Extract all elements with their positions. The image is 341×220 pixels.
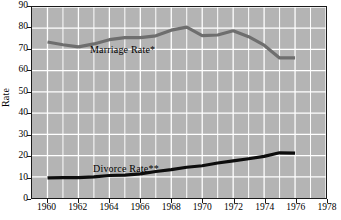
y-tick-mark-30 — [27, 135, 31, 136]
plot-area — [31, 6, 327, 199]
x-tick-label-1962: 1962 — [61, 203, 95, 213]
y-tick-label-30: 30 — [6, 130, 28, 140]
y-tick-mark-40 — [27, 113, 31, 114]
x-tick-mark-1972 — [234, 199, 235, 203]
y-tick-label-70: 70 — [6, 44, 28, 54]
series-label-divorce-rate: Divorce Rate** — [93, 163, 159, 174]
x-tick-label-1972: 1972 — [217, 203, 251, 213]
x-tick-label-1974: 1974 — [248, 203, 282, 213]
y-tick-label-20: 20 — [6, 151, 28, 161]
x-tick-label-1976: 1976 — [279, 203, 313, 213]
y-tick-label-0: 0 — [6, 194, 28, 204]
x-tick-label-1970: 1970 — [185, 203, 219, 213]
x-tick-label-1966: 1966 — [123, 203, 157, 213]
y-tick-label-60: 60 — [6, 65, 28, 75]
y-tick-label-40: 40 — [6, 108, 28, 118]
y-tick-mark-10 — [27, 178, 31, 179]
x-tick-mark-1966 — [140, 199, 141, 203]
x-tick-mark-1968 — [171, 199, 172, 203]
y-tick-mark-80 — [27, 27, 31, 28]
x-tick-label-1964: 1964 — [92, 203, 126, 213]
x-tick-mark-1970 — [202, 199, 203, 203]
x-tick-label-1960: 1960 — [30, 203, 64, 213]
y-tick-mark-70 — [27, 49, 31, 50]
plot-svg — [32, 7, 326, 198]
y-tick-mark-60 — [27, 70, 31, 71]
x-tick-mark-1974 — [265, 199, 266, 203]
y-tick-mark-90 — [27, 6, 31, 7]
x-tick-mark-1964 — [109, 199, 110, 203]
series-label-marriage-rate: Marriage Rate* — [90, 44, 155, 55]
y-tick-mark-50 — [27, 92, 31, 93]
y-tick-mark-20 — [27, 156, 31, 157]
y-tick-label-50: 50 — [6, 87, 28, 97]
y-tick-label-10: 10 — [6, 173, 28, 183]
x-tick-label-1978: 1978 — [310, 203, 341, 213]
x-tick-mark-1962 — [78, 199, 79, 203]
x-tick-mark-1976 — [296, 199, 297, 203]
y-tick-mark-0 — [27, 199, 31, 200]
x-tick-mark-1978 — [327, 199, 328, 203]
y-axis-tick-labels: 9080706050403020100 — [4, 0, 28, 220]
x-tick-label-1968: 1968 — [154, 203, 188, 213]
y-tick-label-90: 90 — [6, 1, 28, 11]
y-tick-label-80: 80 — [6, 22, 28, 32]
x-tick-mark-1960 — [47, 199, 48, 203]
